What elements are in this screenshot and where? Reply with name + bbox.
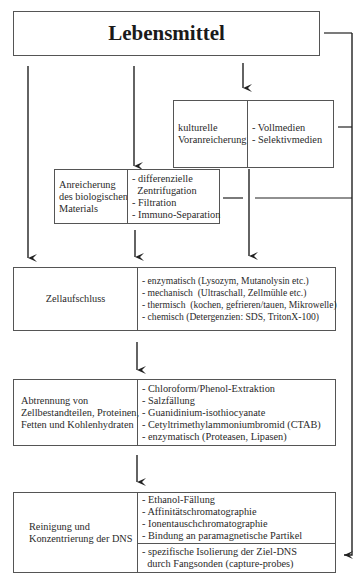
zellaufschluss-items: - enzymatisch (Lysozym, Mutanolysin etc.… bbox=[142, 268, 337, 330]
zellaufschluss-item: - enzymatisch (Lysozym, Mutanolysin etc.… bbox=[142, 275, 337, 287]
anreicherung-label: Anreicherung des biologischen Materials bbox=[59, 170, 129, 223]
reinigung-item: - Bindung an paramagnetische Partikel bbox=[142, 530, 337, 542]
kulturell-label: kulturelle Voranreicherung bbox=[178, 101, 248, 167]
anreicherung-label-line: Anreicherung bbox=[59, 179, 129, 191]
abtrennung-label-line: Abtrennung von bbox=[21, 395, 139, 407]
reinigung-item: - spezifische Isolierung der Ziel-DNS bbox=[142, 546, 337, 558]
anreicherung-item: - Immuno-Separation bbox=[132, 209, 220, 221]
reinigung-item: - Ethanol-Fällung bbox=[142, 494, 337, 506]
anreicherung-items: - differenzielle Zentrifugation - Filtra… bbox=[132, 170, 220, 223]
anreicherung-item: - differenzielle bbox=[132, 173, 220, 185]
anreicherung-item: Zentrifugation bbox=[132, 185, 220, 197]
anreicherung-item: - Filtration bbox=[132, 197, 220, 209]
reinigung-label: Reinigung und Konzentrierung der DNS bbox=[29, 493, 139, 572]
abtrennung-box: Abtrennung von Zellbestandteilen, Protei… bbox=[13, 379, 336, 446]
lebensmittel-title: Lebensmittel bbox=[108, 21, 225, 46]
abtrennung-item: - enzymatisch (Proteasen, Lipasen) bbox=[142, 431, 337, 443]
kulturell-items: - Vollmedien - Selektivmedien bbox=[252, 101, 332, 167]
reinigung-item: durch Fangsonden (capture-probes) bbox=[142, 558, 337, 570]
abtrennung-items: - Chloroform/Phenol-Extraktion - Salzfäl… bbox=[142, 380, 337, 445]
abtrennung-label: Abtrennung von Zellbestandteilen, Protei… bbox=[21, 380, 139, 445]
abtrennung-item: - Chloroform/Phenol-Extraktion bbox=[142, 383, 337, 395]
kulturell-item: - Vollmedien bbox=[252, 122, 332, 134]
lebensmittel-box: Lebensmittel bbox=[13, 11, 320, 56]
reinigung-label-line: Reinigung und bbox=[29, 521, 139, 533]
anreicherung-label-line: des biologischen bbox=[59, 191, 129, 203]
zellaufschluss-item: - chemisch (Detergenzien: SDS, TritonX-1… bbox=[142, 311, 337, 323]
zellaufschluss-item: - thermisch (kochen, gefrieren/tauen, Mi… bbox=[142, 299, 337, 311]
reinigung-item: - Ionentauschchromatographie bbox=[142, 518, 337, 530]
kulturell-label-line: kulturelle bbox=[178, 122, 248, 134]
kulturelle-voranreicherung-box: kulturelle Voranreicherung - Vollmedien … bbox=[173, 100, 334, 168]
abtrennung-item: - Salzfällung bbox=[142, 395, 337, 407]
abtrennung-label-line: Fetten und Kohlenhydraten bbox=[21, 419, 139, 431]
zellaufschluss-label: Zellaufschluss bbox=[14, 268, 137, 330]
kulturell-item: - Selektivmedien bbox=[252, 134, 332, 146]
anreicherung-label-line: Materials bbox=[59, 203, 129, 215]
zellaufschluss-item: - mechanisch (Ultraschall, Zellmühle etc… bbox=[142, 287, 337, 299]
abtrennung-item: - Guanidinium-isothiocyanate bbox=[142, 407, 337, 419]
reinigung-item: - Affinitätschromatographie bbox=[142, 506, 337, 518]
kulturell-label-line: Voranreicherung bbox=[178, 134, 248, 146]
abtrennung-divider bbox=[137, 380, 138, 445]
zellaufschluss-box: Zellaufschluss - enzymatisch (Lysozym, M… bbox=[13, 267, 336, 331]
kulturell-divider bbox=[247, 101, 248, 167]
anreicherung-box: Anreicherung des biologischen Materials … bbox=[54, 169, 220, 224]
abtrennung-label-line: Zellbestandteilen, Proteinen, bbox=[21, 407, 139, 419]
zellaufschluss-divider bbox=[137, 268, 138, 330]
anreicherung-divider bbox=[127, 170, 128, 223]
reinigung-methods-specific: - spezifische Isolierung der Ziel-DNS du… bbox=[138, 544, 335, 572]
reinigung-methods-general: - Ethanol-Fällung - Affinitätschromatogr… bbox=[138, 493, 335, 543]
abtrennung-item: - Cetyltrimethylammoniumbromid (CTAB) bbox=[142, 419, 337, 431]
reinigung-box: Reinigung und Konzentrierung der DNS - E… bbox=[13, 492, 336, 573]
bypass-line-to-capture-probes bbox=[344, 33, 352, 555]
reinigung-label-line: Konzentrierung der DNS bbox=[29, 533, 139, 545]
zellaufschluss-label-text: Zellaufschluss bbox=[46, 293, 105, 305]
